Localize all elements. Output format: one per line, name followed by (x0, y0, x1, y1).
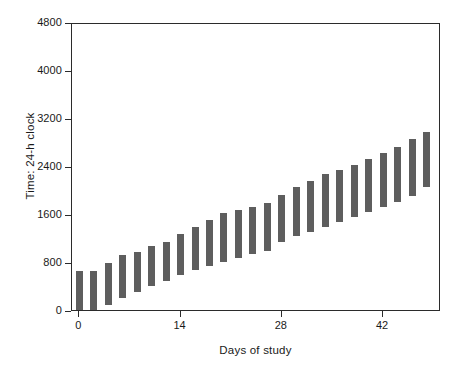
x-axis-tick-mark (180, 311, 181, 317)
y-axis-title: Time: 24-h clock (24, 56, 36, 256)
y-axis-tick-mark (65, 263, 71, 264)
y-axis-tick-mark (65, 23, 71, 24)
bar (394, 147, 401, 202)
bar (220, 213, 227, 262)
y-axis-tick-mark (65, 71, 71, 72)
bar (119, 255, 126, 298)
y-axis-tick-mark (65, 167, 71, 168)
y-axis-tick-label: 800 (43, 257, 62, 268)
bar (105, 263, 112, 305)
x-axis-tick-label: 14 (160, 319, 200, 331)
bar (322, 174, 329, 227)
bar (336, 170, 343, 222)
x-axis-tick-mark (281, 311, 282, 317)
bar (293, 187, 300, 236)
y-axis-tick-mark (65, 311, 71, 312)
y-axis-tick-label: 2400 (37, 161, 62, 172)
y-axis-tick-mark (65, 215, 71, 216)
x-axis-tick-label: 42 (362, 319, 402, 331)
x-axis-tick-label: 28 (261, 319, 301, 331)
bar (134, 252, 141, 292)
bar (90, 271, 97, 311)
bar (206, 220, 213, 266)
bar (235, 210, 242, 258)
bar (148, 246, 155, 286)
x-axis-tick-label: 0 (58, 319, 98, 331)
y-axis-tick-label: 4000 (37, 65, 62, 76)
y-axis-tick-label: 1600 (37, 209, 62, 220)
bar (278, 195, 285, 242)
bar (76, 271, 83, 311)
bar (423, 132, 430, 187)
bar (307, 181, 314, 231)
plot-area (71, 23, 440, 311)
chart-figure: 080016002400320040004800 Time: 24-h cloc… (0, 0, 453, 372)
bar (380, 153, 387, 207)
bar (351, 165, 358, 217)
bar (264, 203, 271, 251)
bar (177, 234, 184, 275)
x-axis-tick-mark (78, 311, 79, 317)
y-axis-tick-mark (65, 119, 71, 120)
x-axis-title: Days of study (71, 344, 440, 356)
y-axis-tick-label: 4800 (37, 17, 62, 28)
x-axis-tick-mark (382, 311, 383, 317)
bar (163, 242, 170, 280)
bar (249, 207, 256, 254)
bar (192, 227, 199, 270)
bar (409, 139, 416, 195)
y-axis-tick-label: 3200 (37, 113, 62, 124)
y-axis-tick-label: 0 (56, 305, 62, 316)
bar (365, 159, 372, 212)
